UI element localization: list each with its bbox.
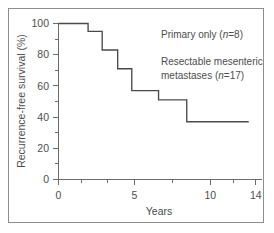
y-tick-label-80: 80 (37, 48, 49, 60)
x-tick-label-10: 10 (204, 189, 216, 201)
x-tick-label-14: 14 (250, 189, 262, 201)
y-tick-label-100: 100 (31, 17, 49, 29)
annotation-resectable-line2: metastases (n=17) (161, 70, 244, 81)
annotation-primary-prefix: Primary only ( (161, 29, 223, 40)
annotation-resectable-line1: Resectable mesenteric (161, 56, 263, 67)
annotation-primary-suffix: =8) (228, 29, 243, 40)
annotation-resectable-suffix: =17) (224, 70, 244, 81)
y-tick-label-20: 20 (37, 142, 49, 154)
y-tick-label-0: 0 (43, 173, 49, 185)
x-axis-title: Years (146, 205, 172, 217)
survival-chart: 0 20 40 60 80 100 0 5 10 14 Years Recurr… (9, 9, 263, 222)
annotation-resectable-prefix: metastases ( (161, 70, 219, 81)
y-axis-title: Recurrence-free survival (%) (15, 34, 27, 168)
y-tick-label-40: 40 (37, 111, 49, 123)
x-tick-label-5: 5 (131, 189, 137, 201)
y-tick-label-60: 60 (37, 80, 49, 92)
x-tick-label-0: 0 (56, 189, 62, 201)
figure-frame: 0 20 40 60 80 100 0 5 10 14 Years Recurr… (8, 8, 264, 223)
annotation-primary-only: Primary only (n=8) (161, 29, 243, 40)
